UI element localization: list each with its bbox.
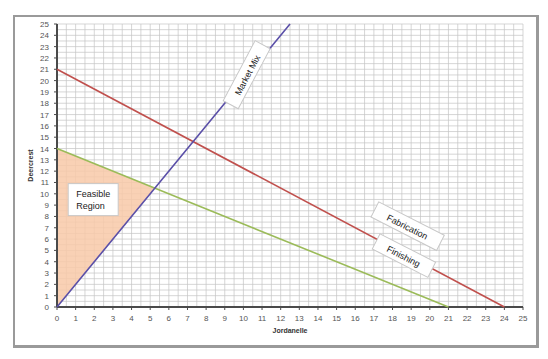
x-tick-label: 14 — [314, 314, 323, 323]
x-tick-label: 23 — [481, 314, 490, 323]
y-tick-label: 17 — [40, 111, 49, 120]
x-tick-label: 24 — [500, 314, 509, 323]
x-tick-label: 20 — [425, 314, 434, 323]
y-tick-label: 7 — [45, 224, 50, 233]
x-tick-label: 2 — [92, 314, 97, 323]
y-tick-label: 4 — [45, 258, 50, 267]
x-tick-label: 9 — [223, 314, 228, 323]
x-tick-label: 13 — [295, 314, 304, 323]
y-tick-label: 2 — [45, 280, 50, 289]
y-tick-label: 3 — [45, 269, 50, 278]
x-tick-label: 15 — [332, 314, 341, 323]
y-tick-label: 18 — [40, 99, 49, 108]
y-tick-label: 19 — [40, 88, 49, 97]
x-tick-label: 0 — [55, 314, 60, 323]
y-tick-label: 9 — [45, 201, 50, 210]
y-tick-label: 5 — [45, 246, 50, 255]
annotations: Market MixFabricationFinishingFeasibleRe… — [68, 41, 444, 278]
x-tick-label: 3 — [111, 314, 116, 323]
y-tick-label: 10 — [40, 190, 49, 199]
annotation-text: Region — [76, 201, 105, 211]
y-tick-label: 12 — [40, 167, 49, 176]
x-tick-label: 1 — [73, 314, 78, 323]
y-tick-label: 20 — [40, 77, 49, 86]
y-tick-label: 24 — [40, 31, 49, 40]
y-axis-label: Deercrest — [27, 149, 34, 182]
y-tick-label: 16 — [40, 122, 49, 131]
x-tick-label: 7 — [185, 314, 190, 323]
y-tick-label: 15 — [40, 133, 49, 142]
x-tick-label: 17 — [369, 314, 378, 323]
x-tick-label: 25 — [519, 314, 528, 323]
x-tick-label: 5 — [148, 314, 153, 323]
chart: 0123456789101112131415161718192021222324… — [0, 0, 548, 359]
y-tick-label: 25 — [40, 20, 49, 29]
y-tick-label: 13 — [40, 156, 49, 165]
grid — [57, 24, 523, 307]
x-tick-label: 6 — [167, 314, 172, 323]
x-tick-label: 18 — [388, 314, 397, 323]
x-tick-label: 12 — [276, 314, 285, 323]
x-tick-label: 4 — [129, 314, 134, 323]
y-tick-label: 1 — [45, 292, 50, 301]
y-tick-label: 11 — [41, 178, 50, 187]
y-tick-label: 21 — [40, 65, 49, 74]
x-axis-label: Jordanelle — [272, 327, 307, 334]
x-tick-label: 19 — [407, 314, 416, 323]
x-tick-label: 11 — [258, 314, 267, 323]
y-tick-label: 23 — [40, 43, 49, 52]
y-tick-label: 0 — [45, 303, 50, 312]
y-tick-label: 14 — [40, 145, 49, 154]
annotation-text: Feasible — [76, 189, 110, 199]
x-tick-label: 8 — [204, 314, 209, 323]
x-tick-label: 10 — [239, 314, 248, 323]
x-tick-label: 16 — [351, 314, 360, 323]
x-tick-label: 22 — [463, 314, 472, 323]
y-tick-label: 6 — [45, 235, 50, 244]
y-tick-label: 22 — [40, 54, 49, 63]
y-tick-label: 8 — [45, 212, 50, 221]
annotation-feasible-region: FeasibleRegion — [68, 184, 118, 216]
x-tick-label: 21 — [444, 314, 453, 323]
